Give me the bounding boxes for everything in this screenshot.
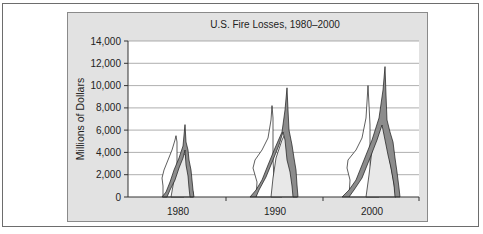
x-tick-1980: 1980 bbox=[167, 206, 190, 217]
y-tick-2000: 2,000 bbox=[96, 169, 121, 180]
y-tick-6000: 6,000 bbox=[96, 125, 121, 136]
y-tick-0: 0 bbox=[115, 192, 121, 203]
y-tick-14000: 14,000 bbox=[90, 36, 121, 47]
x-tick-2000: 2000 bbox=[361, 206, 384, 217]
y-axis-label: Millions of Dollars bbox=[74, 78, 86, 160]
chart-svg: U.S. Fire Losses, 1980–2000 0 2,000 4,00… bbox=[0, 0, 483, 234]
y-axis bbox=[124, 41, 128, 197]
y-tick-12000: 12,000 bbox=[90, 58, 121, 69]
y-tick-10000: 10,000 bbox=[90, 80, 121, 91]
y-tick-4000: 4,000 bbox=[96, 147, 121, 158]
x-tick-1990: 1990 bbox=[264, 206, 287, 217]
x-tick-labels: 1980 1990 2000 bbox=[167, 206, 384, 217]
chart-title: U.S. Fire Losses, 1980–2000 bbox=[210, 19, 340, 30]
y-tick-labels: 0 2,000 4,000 6,000 8,000 10,000 12,000 … bbox=[90, 36, 121, 203]
x-axis bbox=[128, 197, 419, 201]
y-tick-8000: 8,000 bbox=[96, 102, 121, 113]
